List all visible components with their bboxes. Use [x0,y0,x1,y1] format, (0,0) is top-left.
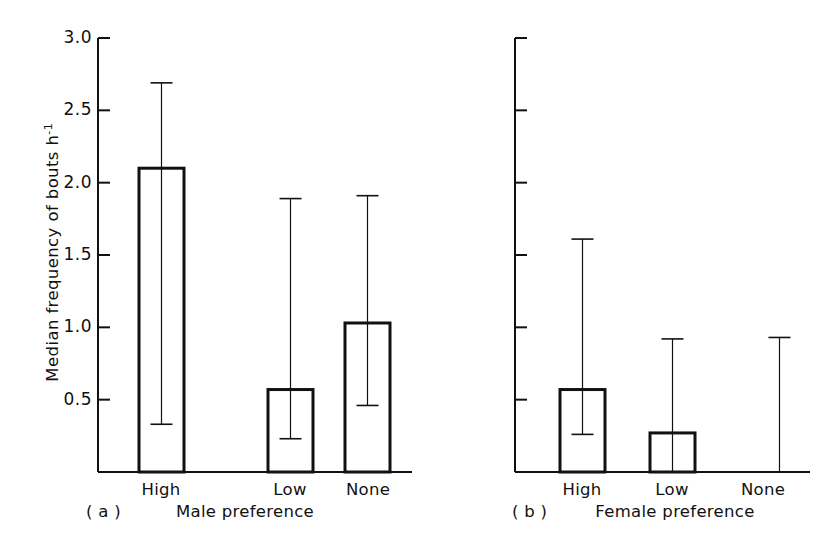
panel-a-male-preference: Median frequency of bouts h-1 0.51.01.52… [0,0,440,548]
category-label-low: Low [627,480,717,499]
category-label-none: None [323,480,413,499]
y-tick-label: 1.5 [38,244,92,264]
figure-bar-chart-preference: Median frequency of bouts h-1 0.51.01.52… [0,0,828,548]
y-tick-label: 2.5 [38,99,92,119]
panel-b-tick-marks [515,38,527,400]
panel-b-female-preference: HighLowNone ( b ) Female preference [440,0,828,548]
category-label-high: High [537,480,627,499]
y-tick-label: 2.0 [38,172,92,192]
y-tick-label: 3.0 [38,27,92,47]
y-tick-label: 0.5 [38,389,92,409]
category-label-high: High [116,480,206,499]
panel-b-plot-area [440,0,828,548]
panel-a-bars [139,83,390,472]
category-label-low: Low [245,480,335,499]
panel-a-tick-marks [98,38,110,400]
panel-b-bars [560,239,791,472]
y-tick-label: 1.0 [38,316,92,336]
category-label-none: None [718,480,808,499]
panel-a-axis-title: Male preference [95,502,395,521]
panel-b-axis-title: Female preference [525,502,825,521]
panel-a-plot-area [0,0,440,548]
